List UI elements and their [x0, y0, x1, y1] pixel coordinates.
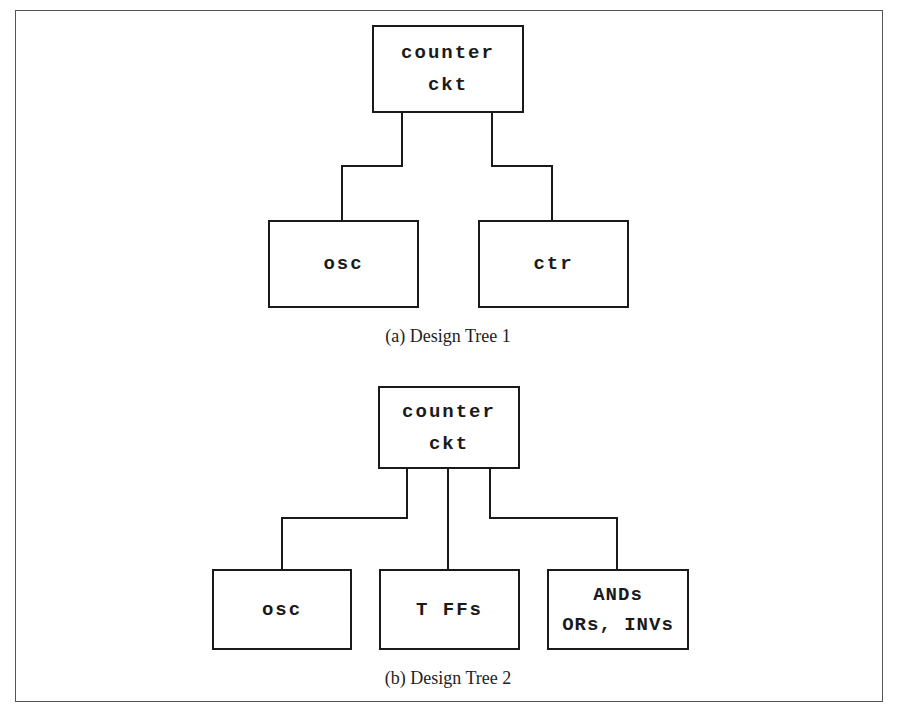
- tree2-node-tffs-label: T FFs: [416, 594, 483, 626]
- tree2-connector: [489, 517, 618, 519]
- tree2-connector: [616, 517, 618, 570]
- tree1-connector: [401, 112, 403, 167]
- tree1-root-node: counter ckt: [372, 25, 524, 113]
- tree2-node-osc: osc: [212, 569, 352, 650]
- tree2-node-gates-label-line1: ANDs: [593, 580, 643, 610]
- tree1-node-ctr-label: ctr: [533, 248, 573, 280]
- tree2-node-tffs: T FFs: [379, 569, 520, 650]
- tree1-node-osc-label: osc: [323, 248, 363, 280]
- tree1-caption: (a) Design Tree 1: [298, 326, 598, 346]
- tree2-caption: (b) Design Tree 2: [298, 668, 598, 688]
- tree1-root-label-line1: counter: [401, 37, 495, 69]
- tree2-node-osc-label: osc: [262, 594, 302, 626]
- tree1-node-osc: osc: [268, 220, 419, 308]
- tree1-connector: [491, 112, 493, 167]
- tree2-root-node: counter ckt: [378, 386, 520, 469]
- tree2-connector: [406, 468, 408, 519]
- tree2-connector: [281, 517, 283, 570]
- tree1-connector: [551, 165, 553, 221]
- tree2-connector: [489, 468, 491, 519]
- tree2-connector: [281, 517, 408, 519]
- tree1-root-label-line2: ckt: [428, 69, 468, 101]
- tree1-node-ctr: ctr: [478, 220, 629, 308]
- tree2-root-label-line2: ckt: [429, 428, 469, 460]
- tree2-node-gates: ANDs ORs, INVs: [547, 569, 689, 650]
- tree2-node-gates-label-line2: ORs, INVs: [562, 610, 674, 640]
- tree1-connector: [491, 165, 553, 167]
- tree1-connector: [341, 165, 343, 221]
- tree2-root-label-line1: counter: [402, 396, 496, 428]
- tree1-connector: [341, 165, 403, 167]
- tree2-connector: [447, 468, 449, 570]
